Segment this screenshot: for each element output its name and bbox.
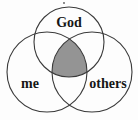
venn-label-god: God — [56, 15, 82, 30]
scan-speck-icon — [63, 2, 65, 4]
venn-label-others: others — [89, 76, 127, 91]
venn-diagram-root: God me others — [0, 0, 138, 120]
venn-diagram-svg: God me others — [0, 0, 138, 120]
venn-label-me: me — [21, 76, 39, 91]
